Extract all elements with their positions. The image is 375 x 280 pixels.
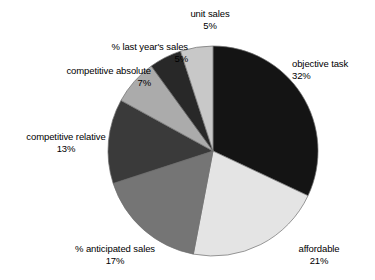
slice-label-value: 5% — [62, 53, 188, 65]
slice-label-value: 5% — [168, 20, 252, 32]
slice-label-affordable: affordable 21% — [280, 243, 358, 266]
slice-label-last-years-sales: % last year's sales 5% — [62, 41, 188, 64]
slice-label-unit-sales: unit sales 5% — [168, 8, 252, 31]
slice-label-value: 17% — [52, 255, 178, 267]
slice-label-value: 7% — [27, 77, 151, 89]
slice-label-value: 32% — [292, 70, 374, 82]
slice-label-value: 21% — [280, 255, 358, 267]
pie-chart: unit sales 5% objective task 32% % last … — [0, 0, 375, 280]
slice-label-value: 13% — [8, 143, 124, 155]
slice-label-name: objective task — [292, 58, 374, 70]
slice-label-name: % anticipated sales — [52, 243, 178, 255]
slice-label-name: competitive absolute — [27, 65, 151, 77]
slice-label-name: competitive relative — [8, 131, 124, 143]
slice-label-competitive-relative: competitive relative 13% — [8, 131, 124, 154]
slice-label-objective-task: objective task 32% — [292, 58, 374, 81]
slice-label-competitive-absolute: competitive absolute 7% — [27, 65, 151, 88]
slice-label-anticipated-sales: % anticipated sales 17% — [52, 243, 178, 266]
slice-label-name: affordable — [280, 243, 358, 255]
slice-label-name: unit sales — [168, 8, 252, 20]
slice-label-name: % last year's sales — [62, 41, 188, 53]
